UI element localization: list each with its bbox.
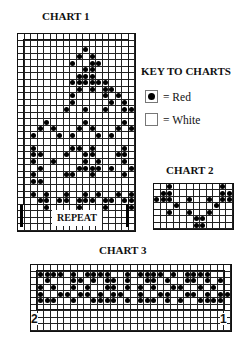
white-stitch-cell: [158, 278, 165, 285]
chart3-start-right-label: 1: [220, 313, 227, 325]
white-stitch-cell: [58, 318, 65, 325]
red-stitch-cell: [51, 272, 58, 279]
white-stitch-cell: [144, 305, 151, 312]
white-stitch-cell: [91, 265, 98, 272]
chart3-grid: [30, 264, 232, 332]
white-stitch-cell: [44, 305, 51, 312]
white-stitch-cell: [129, 132, 136, 139]
white-stitch-cell: [144, 265, 151, 272]
white-stitch-cell: [64, 305, 71, 312]
white-stitch-cell: [118, 298, 125, 305]
white-stitch-cell: [191, 285, 198, 292]
red-stitch-cell: [38, 298, 45, 305]
white-stitch-cell: [31, 278, 38, 285]
white-stitch-cell: [51, 265, 58, 272]
white-stitch-cell: [184, 318, 191, 325]
red-stitch-cell: [71, 278, 78, 285]
white-stitch-cell: [131, 305, 138, 312]
white-stitch-cell: [184, 285, 191, 292]
white-stitch-cell: [171, 305, 178, 312]
red-stitch-cell: [71, 272, 78, 279]
white-stitch-cell: [124, 318, 131, 325]
red-stitch-cell: [218, 278, 225, 285]
white-stitch-cell: [198, 318, 205, 325]
red-stitch-cell: [84, 272, 91, 279]
white-stitch-cell: [198, 265, 205, 272]
red-stitch-cell: [71, 298, 78, 305]
red-stitch-cell: [204, 291, 211, 298]
red-stitch-cell: [191, 272, 198, 279]
chart3-start-left-label: 2: [31, 313, 38, 325]
white-stitch-cell: [167, 223, 174, 229]
white-stitch-cell: [178, 324, 185, 331]
white-stitch-cell: [207, 223, 214, 229]
white-stitch-cell: [204, 311, 211, 318]
white-stitch-cell: [224, 305, 231, 312]
white-stitch-cell: [218, 305, 225, 312]
white-stitch-cell: [51, 324, 58, 331]
red-stitch-cell: [218, 298, 225, 305]
white-stitch-cell: [131, 311, 138, 318]
white-stitch-cell: [131, 285, 138, 292]
white-stitch-cell: [178, 272, 185, 279]
red-stitch-cell: [91, 272, 98, 279]
white-stitch-cell: [211, 324, 218, 331]
white-stitch-cell: [38, 278, 45, 285]
white-stitch-cell: [218, 265, 225, 272]
red-stitch-cell: [171, 285, 178, 292]
red-stitch-cell: [91, 278, 98, 285]
red-stitch-cell: [144, 272, 151, 279]
key-title: KEY TO CHARTS: [141, 65, 231, 77]
white-stitch-cell: [180, 223, 187, 229]
white-stitch-cell: [58, 305, 65, 312]
white-stitch-cell: [118, 265, 125, 272]
white-stitch-cell: [64, 272, 71, 279]
red-stitch-cell: [98, 291, 105, 298]
white-stitch-cell: [91, 324, 98, 331]
red-stitch-cell: [211, 285, 218, 292]
white-stitch-cell: [51, 318, 58, 325]
red-stitch-cell: [198, 298, 205, 305]
red-stitch-cell: [124, 298, 131, 305]
white-stitch-cell: [38, 311, 45, 318]
white-stitch-cell: [164, 285, 171, 292]
white-stitch-cell: [131, 291, 138, 298]
red-stitch-cell: [91, 298, 98, 305]
white-stitch-cell: [151, 305, 158, 312]
white-stitch-cell: [98, 305, 105, 312]
white-stitch-cell: [204, 285, 211, 292]
white-stitch-cell: [58, 311, 65, 318]
red-stitch-cell: [38, 272, 45, 279]
white-stitch-cell: [71, 265, 78, 272]
red-stitch-cell: [104, 298, 111, 305]
white-stitch-cell: [124, 305, 131, 312]
white-stitch-cell: [204, 305, 211, 312]
white-stitch-cell: [118, 305, 125, 312]
white-stitch-cell: [144, 285, 151, 292]
white-square-icon: [145, 113, 158, 126]
white-stitch-cell: [78, 285, 85, 292]
red-stitch-cell: [129, 205, 136, 212]
white-stitch-cell: [178, 318, 185, 325]
white-stitch-cell: [138, 318, 145, 325]
white-stitch-cell: [91, 285, 98, 292]
white-stitch-cell: [158, 305, 165, 312]
red-stitch-cell: [138, 291, 145, 298]
white-stitch-cell: [211, 265, 218, 272]
red-stitch-cell: [104, 272, 111, 279]
red-stitch-cell: [164, 291, 171, 298]
red-stitch-cell: [124, 272, 131, 279]
white-stitch-cell: [144, 324, 151, 331]
white-stitch-cell: [198, 305, 205, 312]
red-stitch-cell: [64, 291, 71, 298]
white-stitch-cell: [198, 311, 205, 318]
white-stitch-cell: [64, 298, 71, 305]
red-stitch-cell: [104, 285, 111, 292]
white-stitch-cell: [78, 318, 85, 325]
white-stitch-cell: [31, 285, 38, 292]
white-stitch-cell: [91, 305, 98, 312]
white-stitch-cell: [158, 318, 165, 325]
red-stitch-cell: [178, 298, 185, 305]
red-stitch-cell: [111, 291, 118, 298]
white-stitch-cell: [71, 318, 78, 325]
